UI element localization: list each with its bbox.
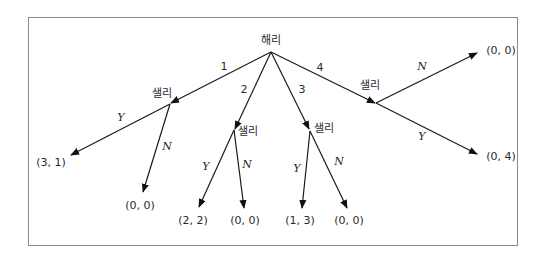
sally-node-4-label: 샐리 [360,79,380,92]
sally1-Y-label: Y [117,111,126,124]
payoff-3N: (0, 0) [334,214,364,227]
payoff-2N: (0, 0) [230,214,260,227]
action-label-4: 4 [317,61,324,74]
payoff-4N: (0, 0) [486,44,516,57]
root-player-label: 해리 [261,33,281,47]
action-label-1: 1 [221,60,228,73]
payoff-1N: (0, 0) [125,199,155,212]
edge-harry-action-4 [271,52,375,103]
payoff-1Y: (3, 1) [36,156,66,169]
action-label-3: 3 [299,83,306,96]
edge-sally3-N [310,131,347,208]
sally3-N-label: N [333,155,344,168]
payoff-3Y: (1, 3) [285,214,315,227]
sally4-N-label: N [416,60,427,73]
sally2-Y-label: Y [202,160,211,173]
sally-node-2-label: 샐리 [238,125,258,138]
action-label-2: 2 [241,83,248,96]
sally1-N-label: N [161,140,172,153]
sally4-Y-label: Y [418,130,427,143]
payoff-4Y: (0, 4) [486,150,516,163]
payoff-2Y: (2, 2) [178,214,208,227]
edge-sally4-Y [376,103,477,154]
edge-sally3-Y [302,131,310,208]
sally-node-3-label: 샐리 [314,122,334,135]
game-tree-diagram: 해리 1 2 3 4 샐리 Y N (3, 1) (0, 0) 샐리 Y N (… [0,0,544,263]
diagram-frame [29,18,518,246]
sally3-Y-label: Y [293,162,302,175]
sally2-N-label: N [241,158,252,171]
sally-node-1-label: 샐리 [152,87,172,100]
